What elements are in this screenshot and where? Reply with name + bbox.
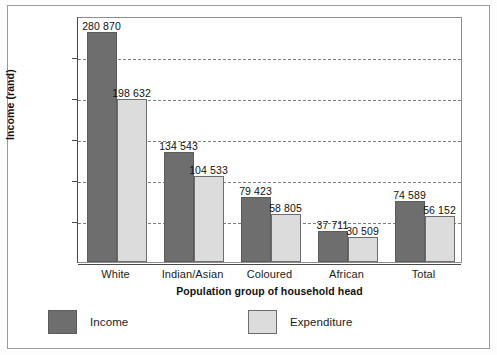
x-axis-title: Population group of household head: [77, 285, 462, 297]
legend-item-expenditure: Expenditure: [248, 310, 352, 334]
bar-value-label: 58 805: [246, 202, 326, 214]
plot-area-wrapper: 280 870198 632134 543104 53379 42358 805…: [77, 17, 462, 263]
legend-swatch-income-icon: [48, 310, 77, 334]
legend-label-expenditure: Expenditure: [290, 316, 352, 328]
bar-expenditure-african: [348, 237, 378, 262]
legend-item-income: Income: [48, 310, 128, 334]
bar-expenditure-total: [425, 216, 455, 262]
bar-expenditure-white: [117, 99, 147, 262]
legend-swatch-expenditure-icon: [248, 310, 277, 334]
bar-value-label: 134 543: [139, 140, 219, 152]
chart-figure: Income (rand) 050 000100 000150 000200 0…: [0, 0, 497, 355]
bar-value-label: 74 589: [370, 189, 450, 201]
gridline-250000: [78, 59, 461, 60]
bar-income-white: [87, 32, 117, 262]
bar-value-label: 79 423: [216, 185, 296, 197]
gridline-0: [78, 264, 461, 265]
bar-value-label: 104 533: [169, 164, 249, 176]
chart-legend: Income Expenditure: [0, 310, 497, 342]
y-axis-line: [77, 17, 78, 263]
bar-value-label: 30 509: [323, 225, 403, 237]
bar-value-label: 280 870: [62, 20, 142, 32]
bar-value-label: 56 152: [400, 204, 480, 216]
legend-label-income: Income: [90, 316, 128, 328]
plot-area: 280 870198 632134 543104 53379 42358 805…: [77, 17, 462, 263]
bar-value-label: 198 632: [92, 87, 172, 99]
x-category-total: Total: [374, 268, 474, 280]
y-axis-title: Income (rand): [4, 69, 16, 140]
